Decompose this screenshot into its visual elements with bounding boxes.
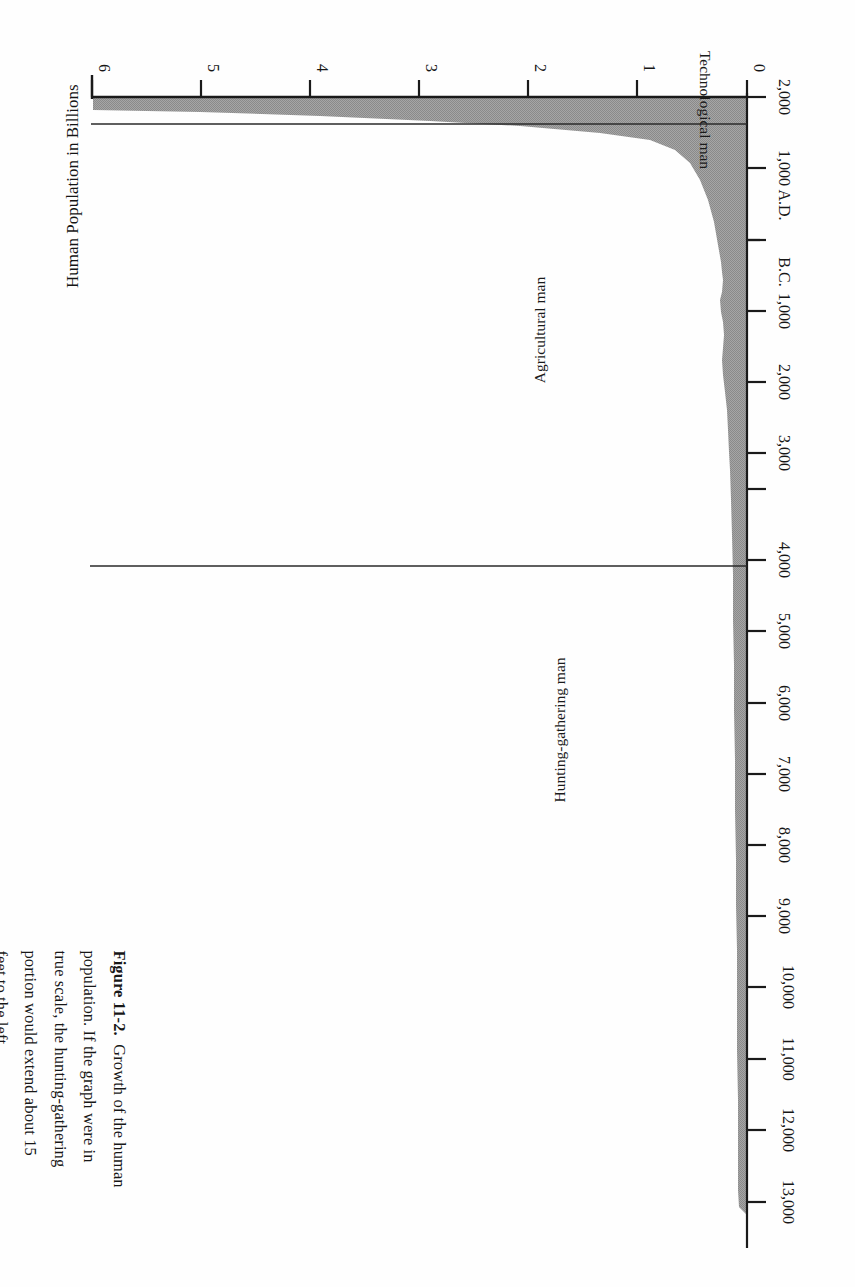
- xtick-8000bc: 8,000: [776, 827, 793, 863]
- xtick-2000ad: 2,000: [776, 79, 793, 115]
- ytick-2: 2: [532, 64, 549, 72]
- xtick-11000bc: 11,000: [780, 1037, 797, 1080]
- xtick-1000bc: 1,000: [776, 293, 793, 329]
- xtick-2000bc: 2,000: [776, 364, 793, 400]
- xtick-10000bc: 10,000: [780, 965, 797, 1009]
- xtick-4000bc: 4,000: [776, 542, 793, 578]
- ytick-5: 5: [205, 64, 222, 72]
- xtick-12000bc: 12,000: [780, 1108, 797, 1152]
- population-growth-chart: 6 5 4 3 2 1 0 Human Population in Billio…: [0, 0, 855, 1287]
- year-tick-labels: 2,000 1,000 1,000 2,000 3,000 4,000 5,00…: [776, 79, 797, 1152]
- ytick-0: 0: [751, 64, 768, 72]
- xtick-13000bc: 13,000: [780, 1180, 797, 1224]
- xtick-5000bc: 5,000: [776, 613, 793, 649]
- label-technological-man: Technological man: [697, 51, 714, 169]
- year-ticks: [747, 97, 766, 1130]
- population-area: [93, 97, 747, 1215]
- era-divider: A.D. B.C.: [747, 189, 793, 286]
- figure-page: Figure 11-2. Growth of the human populat…: [0, 0, 855, 1287]
- label-hunting-gathering-man: Hunting-gathering man: [551, 657, 568, 802]
- xtick-9000bc: 9,000: [776, 898, 793, 934]
- population-tick-labels: 6 5 4 3 2 1 0: [96, 64, 768, 72]
- ytick-6: 6: [96, 64, 113, 72]
- y-axis-title: Human Population in Billions: [63, 84, 82, 288]
- era-label-ad: A.D.: [776, 189, 793, 220]
- ytick-3: 3: [423, 64, 440, 72]
- xtick-7000bc: 7,000: [776, 756, 793, 792]
- xtick-6000bc: 6,000: [776, 685, 793, 721]
- ytick-1: 1: [641, 64, 658, 72]
- era-label-bc: B.C.: [776, 257, 793, 286]
- xtick-3000bc: 3,000: [776, 435, 793, 471]
- population-ticks: [92, 80, 747, 97]
- xtick-1000ad: 1,000: [776, 150, 793, 186]
- label-agricultural-man: Agricultural man: [531, 277, 548, 384]
- ytick-4: 4: [314, 64, 331, 72]
